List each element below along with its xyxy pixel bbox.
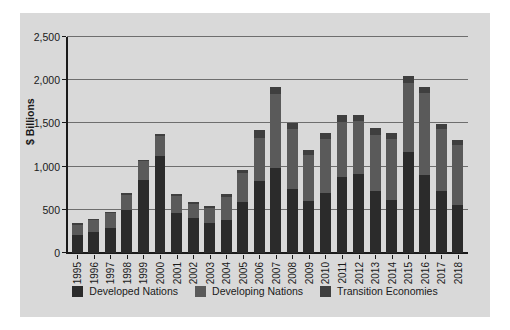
bar-stack <box>221 194 232 253</box>
x-tick-label: 2000 <box>155 262 166 284</box>
bar-stack <box>204 206 215 253</box>
y-tick-label: 1,500 <box>34 117 60 129</box>
bar-segment <box>221 220 232 253</box>
bar-stack <box>370 128 381 253</box>
x-tick-mark <box>292 255 293 259</box>
bar-segment <box>254 138 265 181</box>
x-tick-label: 2014 <box>386 262 397 284</box>
bar-column <box>168 37 185 253</box>
y-tick-label: 500 <box>42 204 60 216</box>
x-tick-label: 2008 <box>287 262 298 284</box>
x-tick-mark <box>425 255 426 259</box>
bar-stack <box>138 160 149 253</box>
x-tick-label: 2016 <box>419 262 430 284</box>
legend-label: Developing Nations <box>212 285 303 297</box>
x-tick-mark <box>342 255 343 259</box>
bar-segment <box>88 232 99 253</box>
bar-segment <box>188 218 199 253</box>
bar-segment <box>254 130 265 137</box>
bar-segment <box>88 220 99 232</box>
bar-stack <box>270 87 281 253</box>
y-tick-label: 2,500 <box>34 31 60 43</box>
bar-segment <box>386 139 397 200</box>
bar-column <box>268 37 285 253</box>
bar-segment <box>320 139 331 193</box>
bar-segment <box>370 191 381 253</box>
bar-segment <box>303 155 314 200</box>
x-tick-label: 2005 <box>237 262 248 284</box>
x-tick-mark <box>375 255 376 259</box>
bar-segment <box>221 197 232 220</box>
x-tick-mark <box>392 255 393 259</box>
plot-area: 05001,0001,5002,0002,500 <box>67 37 468 253</box>
bar-segment <box>171 196 182 213</box>
bar-segment <box>370 128 381 135</box>
x-tick-mark <box>309 255 310 259</box>
bar-stack <box>337 115 348 253</box>
legend-item[interactable]: Developed Nations <box>72 285 178 297</box>
bar-column <box>218 37 235 253</box>
bar-column <box>383 37 400 253</box>
x-tick-label: 2011 <box>337 262 348 284</box>
x-tick-label: 1998 <box>121 262 132 284</box>
bar-segment <box>138 161 149 180</box>
bar-column <box>201 37 218 253</box>
bar-segment <box>452 145 463 205</box>
bar-segment <box>419 93 430 175</box>
x-tick-mark <box>259 255 260 259</box>
bar-column <box>135 37 152 253</box>
bar-segment <box>237 202 248 253</box>
x-tick-mark <box>77 255 78 259</box>
chart-figure: $ Billions 05001,0001,5002,0002,500 1995… <box>20 13 490 317</box>
bar-column <box>367 37 384 253</box>
x-tick-label: 2006 <box>254 262 265 284</box>
x-tick-label: 1997 <box>105 262 116 284</box>
bar-stack <box>287 123 298 253</box>
bar-segment <box>270 87 281 95</box>
legend-label: Transition Economies <box>337 285 438 297</box>
bar-segment <box>204 208 215 223</box>
x-tick-mark <box>325 255 326 259</box>
x-tick-label: 2004 <box>221 262 232 284</box>
bar-stack <box>353 115 364 253</box>
bar-column <box>450 37 467 253</box>
bar-stack <box>188 202 199 253</box>
bar-segment <box>337 177 348 253</box>
bar-stack <box>386 133 397 253</box>
x-tick-label: 2012 <box>353 262 364 284</box>
bar-segment <box>105 228 116 253</box>
x-tick-mark <box>110 255 111 259</box>
bar-stack <box>237 170 248 253</box>
x-tick-label: 2007 <box>270 262 281 284</box>
bar-stack <box>171 194 182 253</box>
bar-column <box>185 37 202 253</box>
x-tick-mark <box>177 255 178 259</box>
x-tick-mark <box>226 255 227 259</box>
bar-segment <box>188 204 199 218</box>
bar-column <box>301 37 318 253</box>
bar-segment <box>320 193 331 253</box>
x-tick-label: 2001 <box>171 262 182 284</box>
x-tick-mark <box>127 255 128 259</box>
x-tick-mark <box>359 255 360 259</box>
bar-segment <box>121 210 132 253</box>
x-tick-mark <box>441 255 442 259</box>
legend-swatch-developing <box>195 286 206 297</box>
x-tick-label: 2009 <box>303 262 314 284</box>
bar-column <box>334 37 351 253</box>
bar-segment <box>403 83 414 152</box>
bar-stack <box>155 134 166 253</box>
bar-segment <box>72 225 83 236</box>
x-tick-label: 2002 <box>188 262 199 284</box>
x-tick-label: 2010 <box>320 262 331 284</box>
bar-segment <box>270 94 281 167</box>
legend-item[interactable]: Developing Nations <box>195 285 303 297</box>
bar-stack <box>320 133 331 253</box>
bar-segment <box>254 181 265 253</box>
bar-stack <box>436 124 447 253</box>
legend-item[interactable]: Transition Economies <box>320 285 438 297</box>
bar-segment <box>436 191 447 253</box>
y-tick-label: 0 <box>54 247 60 259</box>
bar-segment <box>287 129 298 189</box>
bar-column <box>86 37 103 253</box>
